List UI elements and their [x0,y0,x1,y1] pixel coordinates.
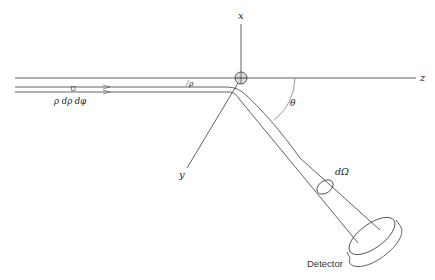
target-nucleus-icon [235,72,247,84]
y-axis-label: y [178,169,185,180]
solid-angle-label: dΩ [335,166,349,177]
area-element-label: ρ dρ dφ [53,96,86,106]
z-axis-label: z [419,72,426,83]
theta-label: θ [290,98,296,108]
x-axis-label: x [238,10,244,21]
scattering-diagram: z x y ρ dρ dφ ρ θ dΩ Detector [0,0,435,280]
incident-trajectory-upper [15,87,380,230]
impact-parameter-label: ρ [188,79,194,88]
y-axis [187,83,238,168]
detector-icon [343,210,402,266]
beam-arrow-icon [103,85,110,94]
detector-label: Detector [307,258,343,269]
incident-trajectory-lower [15,92,358,243]
